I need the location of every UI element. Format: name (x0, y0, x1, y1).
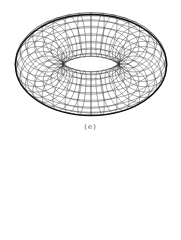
figure-caption: (e) (0, 123, 181, 131)
